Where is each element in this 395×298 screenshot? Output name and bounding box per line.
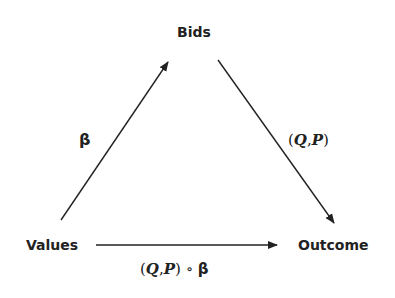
compose-operator: ∘ xyxy=(181,260,198,278)
paren-close: ) xyxy=(323,131,329,149)
node-outcome: Outcome xyxy=(298,237,369,253)
edge-values-to-bids xyxy=(61,62,168,220)
edge-label-beta: β xyxy=(79,130,90,149)
node-bids: Bids xyxy=(177,24,211,40)
symbol-p: P xyxy=(164,260,175,278)
symbol-beta: β xyxy=(198,260,209,278)
node-values: Values xyxy=(26,237,78,253)
diagram-canvas: Bids Values Outcome β (Q,P) (Q,P) ∘ β xyxy=(0,0,395,298)
edge-label-qp: (Q,P) xyxy=(288,131,329,149)
symbol-p: P xyxy=(312,131,323,149)
symbol-q: Q xyxy=(294,131,307,149)
arrows-layer xyxy=(0,0,395,298)
symbol-q: Q xyxy=(146,260,159,278)
edge-label-composition: (Q,P) ∘ β xyxy=(140,260,209,278)
